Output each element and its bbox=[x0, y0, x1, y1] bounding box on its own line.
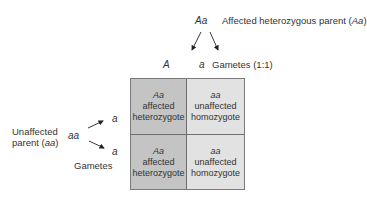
top-gamete-a: a bbox=[199, 59, 205, 70]
left-parent-label: Unaffected parent (aa) bbox=[12, 126, 59, 148]
arrow-to-a-lower bbox=[89, 141, 104, 148]
cell-zygosity: heterozygote bbox=[132, 112, 184, 123]
punnett-cell-bottom-right: aa unaffected homozygote bbox=[187, 135, 244, 189]
top-gametes-label: Gametes (1:1) bbox=[212, 59, 273, 70]
top-parent-label: Affected heterozygous parent (Aa) bbox=[222, 15, 367, 26]
cell-phenotype: unaffected bbox=[195, 157, 237, 168]
cell-genotype: aa bbox=[210, 90, 220, 101]
punnett-cell-bottom-left: Aa affected heterozygote bbox=[131, 135, 186, 189]
cell-phenotype: affected bbox=[143, 101, 175, 112]
top-parent-label-suffix: ) bbox=[363, 15, 366, 26]
left-parent-label-line1: Unaffected bbox=[12, 126, 59, 137]
arrow-to-a-top bbox=[210, 32, 218, 50]
left-parent-label-line2: parent (aa) bbox=[12, 137, 59, 148]
cell-genotype: aa bbox=[210, 146, 220, 157]
cell-zygosity: homozygote bbox=[191, 168, 240, 179]
cell-genotype: Aa bbox=[153, 90, 164, 101]
top-gamete-A: A bbox=[163, 59, 170, 70]
top-parent-label-genotype: Aa bbox=[352, 15, 364, 26]
top-parent-label-prefix: Affected heterozygous parent ( bbox=[222, 15, 352, 26]
cell-genotype: Aa bbox=[153, 146, 164, 157]
cell-phenotype: affected bbox=[143, 157, 175, 168]
left-gametes-label: Gametes bbox=[74, 160, 113, 171]
cell-zygosity: heterozygote bbox=[132, 168, 184, 179]
arrow-to-a-upper bbox=[88, 121, 103, 128]
top-parent-genotype: Aa bbox=[195, 15, 207, 26]
left-parent-genotype: aa bbox=[68, 130, 79, 141]
punnett-cell-top-left: Aa affected heterozygote bbox=[131, 79, 186, 134]
arrow-to-A bbox=[192, 32, 201, 50]
cell-phenotype: unaffected bbox=[195, 101, 237, 112]
left-gamete-a-lower: a bbox=[112, 146, 118, 157]
grid-divider-horizontal bbox=[131, 134, 244, 135]
left-gamete-a-upper: a bbox=[112, 113, 118, 124]
cell-zygosity: homozygote bbox=[191, 112, 240, 123]
punnett-cell-top-right: aa unaffected homozygote bbox=[187, 79, 244, 134]
punnett-square: Aa affected heterozygote aa unaffected h… bbox=[130, 78, 245, 190]
